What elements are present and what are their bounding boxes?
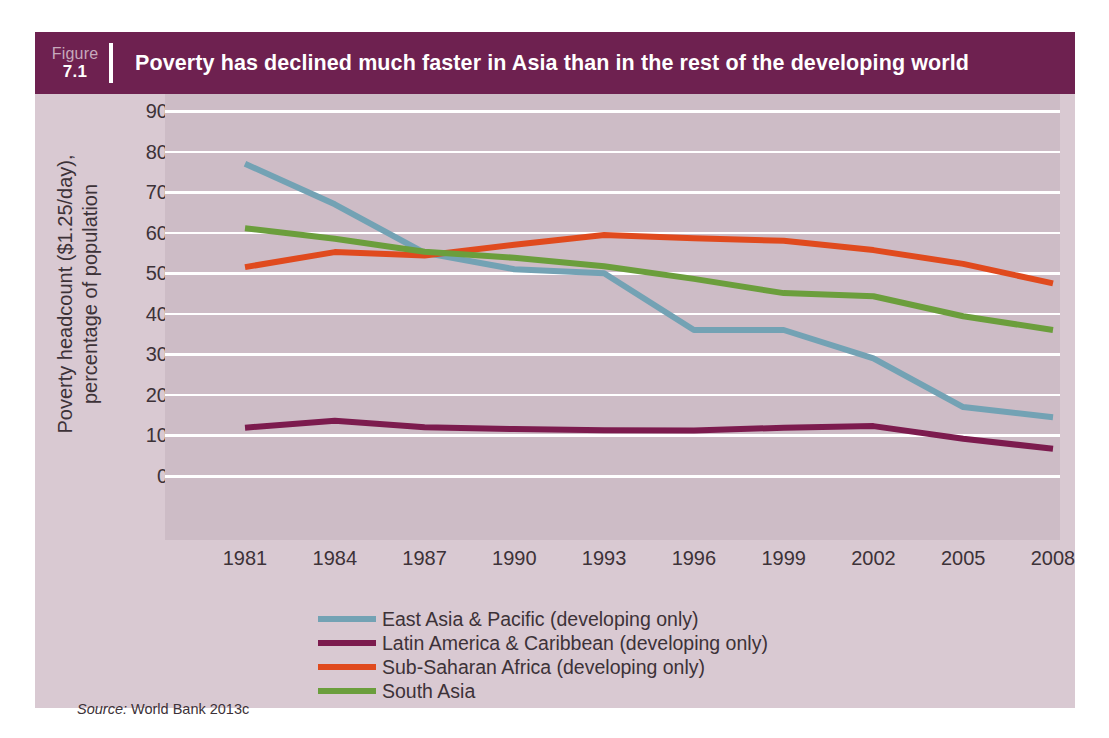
- y-tick-label: 60: [110, 223, 168, 243]
- x-tick-label: 2002: [828, 546, 918, 570]
- y-tick-label: 30: [110, 344, 168, 364]
- x-tick-label: 1993: [559, 546, 649, 570]
- x-tick-label: 1987: [380, 546, 470, 570]
- legend-item[interactable]: East Asia & Pacific (developing only): [318, 607, 878, 631]
- figure-title: Poverty has declined much faster in Asia…: [113, 32, 969, 94]
- y-tick-label: 40: [110, 304, 168, 324]
- y-tick-label: 50: [110, 263, 168, 283]
- legend-label: East Asia & Pacific (developing only): [382, 608, 699, 630]
- legend-swatch: [318, 640, 376, 646]
- x-tick-label: 1981: [200, 546, 290, 570]
- chart-area: Poverty headcount ($1.25/day), percentag…: [35, 94, 1075, 708]
- y-axis-tick-labels: 9080706050403020100: [110, 94, 168, 708]
- series-line: [245, 421, 1053, 449]
- x-tick-label: 1984: [290, 546, 380, 570]
- figure-panel: Figure 7.1 Poverty has declined much fas…: [35, 32, 1075, 708]
- legend-item[interactable]: Sub-Saharan Africa (developing only): [318, 655, 878, 679]
- source-text: World Bank 2013c: [131, 701, 249, 717]
- source-note: Source: World Bank 2013c: [77, 701, 249, 718]
- y-axis-title-line2: percentage of population: [78, 99, 103, 489]
- legend-swatch: [318, 616, 376, 622]
- series-line: [245, 228, 1053, 330]
- y-axis-title-line1: Poverty headcount ($1.25/day),: [53, 99, 78, 489]
- legend-label: Latin America & Caribbean (developing on…: [382, 632, 768, 654]
- figure-title-bar: Figure 7.1 Poverty has declined much fas…: [35, 32, 1075, 94]
- y-tick-label: 70: [110, 182, 168, 202]
- y-tick-label: 90: [110, 101, 168, 121]
- figure-number: 7.1: [63, 62, 88, 81]
- figure-number-block: Figure 7.1: [35, 32, 109, 94]
- figure-label-word: Figure: [52, 45, 99, 62]
- y-tick-label: 80: [110, 142, 168, 162]
- legend-swatch: [318, 664, 376, 670]
- x-axis-tick-labels: 1981198419871990199319961999200220052008: [165, 546, 1060, 580]
- x-tick-label: 1990: [469, 546, 559, 570]
- legend-label: Sub-Saharan Africa (developing only): [382, 656, 705, 678]
- legend-item[interactable]: South Asia: [318, 679, 878, 703]
- x-tick-label: 2005: [918, 546, 1008, 570]
- chart-legend: East Asia & Pacific (developing only)Lat…: [318, 607, 878, 703]
- y-tick-label: 10: [110, 425, 168, 445]
- y-axis-title: Poverty headcount ($1.25/day), percentag…: [53, 99, 103, 489]
- x-tick-label: 2008: [1008, 546, 1098, 570]
- legend-label: South Asia: [382, 680, 475, 702]
- x-tick-label: 1999: [739, 546, 829, 570]
- legend-item[interactable]: Latin America & Caribbean (developing on…: [318, 631, 878, 655]
- legend-swatch: [318, 688, 376, 694]
- x-tick-label: 1996: [649, 546, 739, 570]
- series-lines: [165, 94, 1060, 554]
- y-tick-label: 20: [110, 385, 168, 405]
- series-line: [245, 164, 1053, 418]
- source-label: Source:: [77, 701, 127, 717]
- y-tick-label: 0: [110, 466, 168, 486]
